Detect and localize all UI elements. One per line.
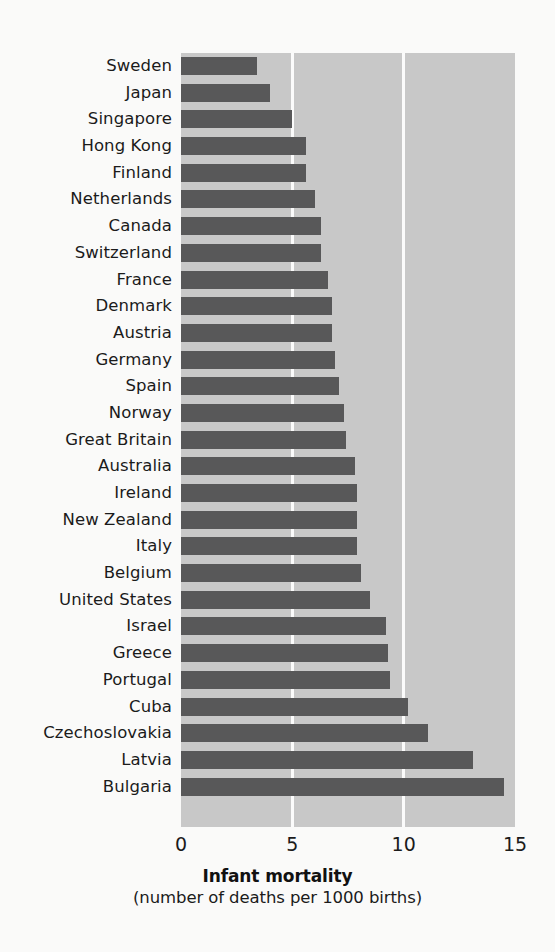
category-axis-labels: SwedenJapanSingaporeHong KongFinlandNeth… [0, 53, 172, 827]
bar-hong-kong [181, 137, 306, 155]
bar-row [181, 186, 515, 213]
bar-belgium [181, 564, 361, 582]
bar-row [181, 427, 515, 454]
category-label-italy: Italy [0, 533, 172, 560]
category-label-hong-kong: Hong Kong [0, 133, 172, 160]
bar-israel [181, 617, 386, 635]
bar-row [181, 293, 515, 320]
bar-latvia [181, 751, 473, 769]
x-tick-label-15: 15 [503, 832, 527, 856]
category-label-japan: Japan [0, 80, 172, 107]
bar-singapore [181, 110, 292, 128]
bar-japan [181, 84, 270, 102]
bar-new-zealand [181, 511, 357, 529]
category-label-germany: Germany [0, 347, 172, 374]
bar-row [181, 106, 515, 133]
category-label-norway: Norway [0, 400, 172, 427]
bar-row [181, 320, 515, 347]
bar-row [181, 747, 515, 774]
bar-great-britain [181, 431, 346, 449]
category-label-ireland: Ireland [0, 480, 172, 507]
bar-row [181, 560, 515, 587]
bar-row [181, 667, 515, 694]
bar-germany [181, 351, 335, 369]
x-tick-label-5: 5 [286, 832, 298, 856]
bar-austria [181, 324, 332, 342]
bar-row [181, 453, 515, 480]
bar-row [181, 533, 515, 560]
bar-sweden [181, 57, 257, 75]
chart-page: SwedenJapanSingaporeHong KongFinlandNeth… [0, 0, 555, 952]
category-label-denmark: Denmark [0, 293, 172, 320]
bar-portugal [181, 671, 390, 689]
bar-row [181, 613, 515, 640]
x-tick-label-0: 0 [175, 832, 187, 856]
category-label-netherlands: Netherlands [0, 186, 172, 213]
category-label-france: France [0, 267, 172, 294]
category-label-portugal: Portugal [0, 667, 172, 694]
bar-row [181, 80, 515, 107]
bar-row [181, 373, 515, 400]
bar-row [181, 267, 515, 294]
infant-mortality-bar-chart: SwedenJapanSingaporeHong KongFinlandNeth… [0, 0, 555, 952]
bar-row [181, 53, 515, 80]
category-label-cuba: Cuba [0, 694, 172, 721]
bar-row [181, 587, 515, 614]
category-label-australia: Australia [0, 453, 172, 480]
x-tick-label-10: 10 [392, 832, 416, 856]
bar-spain [181, 377, 339, 395]
bar-row [181, 640, 515, 667]
bar-row [181, 347, 515, 374]
bar-australia [181, 457, 355, 475]
category-label-greece: Greece [0, 640, 172, 667]
bar-ireland [181, 484, 357, 502]
chart-subtitle: (number of deaths per 1000 births) [0, 887, 555, 909]
bar-row [181, 160, 515, 187]
bar-row [181, 507, 515, 534]
bar-row [181, 694, 515, 721]
category-label-israel: Israel [0, 613, 172, 640]
x-axis-tick-labels: 051015 [0, 832, 555, 860]
category-label-new-zealand: New Zealand [0, 507, 172, 534]
bar-row [181, 240, 515, 267]
bar-rows [181, 53, 515, 827]
plot-area [181, 53, 515, 827]
bar-united-states [181, 591, 370, 609]
bar-bulgaria [181, 778, 504, 796]
category-label-bulgaria: Bulgaria [0, 774, 172, 801]
category-label-singapore: Singapore [0, 106, 172, 133]
bar-italy [181, 537, 357, 555]
category-label-spain: Spain [0, 373, 172, 400]
category-label-belgium: Belgium [0, 560, 172, 587]
bar-cuba [181, 698, 408, 716]
bar-france [181, 271, 328, 289]
bar-row [181, 774, 515, 801]
bar-row [181, 213, 515, 240]
bar-switzerland [181, 244, 321, 262]
category-label-great-britain: Great Britain [0, 427, 172, 454]
category-label-switzerland: Switzerland [0, 240, 172, 267]
bar-netherlands [181, 190, 315, 208]
category-label-united-states: United States [0, 587, 172, 614]
category-label-finland: Finland [0, 160, 172, 187]
category-label-czechoslovakia: Czechoslovakia [0, 720, 172, 747]
category-label-sweden: Sweden [0, 53, 172, 80]
bar-row [181, 400, 515, 427]
bar-row [181, 133, 515, 160]
category-label-latvia: Latvia [0, 747, 172, 774]
category-label-canada: Canada [0, 213, 172, 240]
chart-title: Infant mortality [0, 866, 555, 887]
bar-finland [181, 164, 306, 182]
axis-title-block: Infant mortality (number of deaths per 1… [0, 866, 555, 909]
bar-canada [181, 217, 321, 235]
category-label-austria: Austria [0, 320, 172, 347]
bar-denmark [181, 297, 332, 315]
bar-greece [181, 644, 388, 662]
bar-row [181, 720, 515, 747]
bar-norway [181, 404, 344, 422]
bar-czechoslovakia [181, 724, 428, 742]
bar-row [181, 480, 515, 507]
